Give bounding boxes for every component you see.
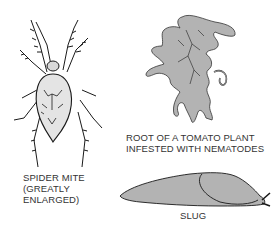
caption-line: ENLARGED) xyxy=(23,194,85,205)
tomato-root-icon xyxy=(146,15,235,122)
spider-mite-body xyxy=(36,61,71,142)
caption-line: SLUG xyxy=(180,210,206,221)
spider-mite-caption: SPIDER MITE (GREATLY ENLARGED) xyxy=(23,172,85,205)
caption-line: ROOT OF A TOMATO PLANT xyxy=(126,132,264,143)
caption-line: (GREATLY xyxy=(23,183,85,194)
caption-line: INFESTED WITH NEMATODES xyxy=(126,143,264,154)
caption-line: SPIDER MITE xyxy=(23,172,85,183)
slug-caption: SLUG xyxy=(180,210,206,221)
tomato-root-caption: ROOT OF A TOMATO PLANT INFESTED WITH NEM… xyxy=(126,132,264,154)
slug-icon xyxy=(120,173,270,206)
